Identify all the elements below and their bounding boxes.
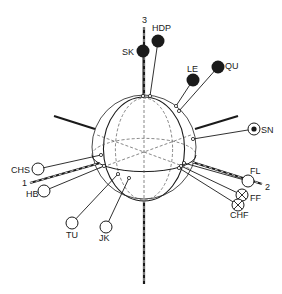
anchor-point-icon	[191, 137, 194, 140]
anchor-point-icon	[99, 153, 102, 156]
anchor-point-icon	[116, 172, 119, 175]
leader-line	[150, 41, 158, 96]
diagram-canvas: 312 SKHDPLEQUSNCHSHBTUJKFLFFCHF	[0, 0, 282, 294]
marker-chs: CHS	[11, 153, 103, 175]
marker-hdp: HDP	[148, 23, 171, 98]
meridian-ellipse-back	[115, 98, 172, 200]
axis-upper-left	[54, 116, 95, 129]
leader-line	[193, 129, 254, 139]
axis-upper-left-line	[54, 116, 95, 129]
marker-label: CHF	[230, 210, 249, 220]
anchor-point-icon	[102, 164, 105, 167]
marker-label: FF	[250, 193, 261, 203]
marker-sk: SK	[122, 45, 150, 98]
marker-fl: FL	[182, 161, 260, 187]
anchor-point-icon	[174, 104, 177, 107]
marker-label: JK	[99, 233, 110, 243]
marker-jk: JK	[99, 176, 131, 243]
marker-label: HB	[26, 189, 39, 199]
anchor-point-icon	[177, 109, 180, 112]
marker-label: SK	[122, 47, 134, 57]
center-dot-icon	[251, 126, 256, 131]
markers: SKHDPLEQUSNCHSHBTUJKFLFFCHF	[11, 23, 274, 243]
anchor-point-icon	[177, 166, 180, 169]
marker-label: HDP	[152, 23, 171, 33]
anchor-point-icon	[127, 176, 130, 179]
marker-label: FL	[250, 166, 261, 176]
filled-circle-icon	[212, 61, 225, 74]
marker-label: CHS	[11, 165, 30, 175]
filled-circle-icon	[137, 45, 150, 58]
marker-label: SN	[261, 125, 274, 135]
open-circle-icon	[100, 221, 112, 233]
axis-upper-right-line	[195, 116, 238, 129]
axis-1-label: 1	[22, 178, 27, 188]
anchor-point-icon	[148, 94, 151, 97]
marker-label: TU	[66, 230, 78, 240]
axis-3-label: 3	[142, 15, 147, 25]
sphere-diagram: 312 SKHDPLEQUSNCHSHBTUJKFLFFCHF	[0, 0, 282, 294]
marker-label: LE	[187, 64, 198, 74]
open-circle-icon	[242, 175, 254, 187]
leader-line	[179, 67, 218, 111]
open-circle-icon	[66, 217, 78, 229]
open-circle-icon	[32, 163, 44, 175]
marker-le: LE	[174, 64, 199, 108]
marker-label: QU	[225, 61, 239, 71]
axis-2-label: 2	[265, 182, 270, 192]
open-circle-icon	[38, 185, 50, 197]
filled-circle-icon	[187, 74, 200, 87]
leader-line	[38, 155, 101, 169]
filled-circle-icon	[152, 35, 165, 48]
anchor-point-icon	[141, 94, 144, 97]
anchor-point-icon	[182, 161, 185, 164]
axis-upper-right	[195, 116, 238, 129]
